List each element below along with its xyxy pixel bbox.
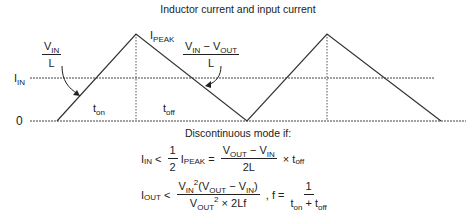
eq1-toff-sub: off: [295, 157, 304, 166]
eq2-main-fraction: VIN2(VOUT − VIN) VOUT2 × 2Lf: [177, 180, 260, 209]
eq2-dv-sq: 2: [214, 195, 218, 204]
fall-slope-numerator: VIN − VOUT: [183, 40, 239, 55]
eq2-fa-sub: on: [294, 203, 303, 212]
fall-slope-fraction: VIN − VOUT L: [183, 40, 239, 69]
eq1-minus: −: [247, 144, 260, 156]
eq2-f-fraction: 1 ton + toff: [291, 180, 327, 209]
equation-2: IOUT < VIN2(VOUT − VIN) VOUT2 × 2Lf , f …: [141, 180, 330, 209]
ton-label: ton: [93, 103, 105, 114]
iin-axis-label: IIN: [14, 73, 25, 84]
eq1-ipeak-sub: PEAK: [184, 157, 205, 166]
equation-1: IIN < 12 IPEAK = VOUT − VIN 2L × toff: [141, 144, 304, 173]
eq1-vb: V: [259, 144, 266, 156]
zero-axis-label: 0: [16, 115, 23, 127]
iin-sub: IN: [17, 78, 25, 87]
eq2-nrest: (V: [198, 180, 209, 192]
ipeak-label: IPEAK: [150, 30, 174, 41]
eq2-numerator: VIN2(VOUT − VIN): [177, 180, 260, 195]
rise-slope-arrow: [62, 66, 78, 94]
eq1-numerator: VOUT − VIN: [221, 144, 277, 159]
fall-vb-sub: OUT: [220, 46, 237, 55]
eq2-nv-sub: IN: [186, 186, 194, 195]
eq1-main-fraction: VOUT − VIN 2L: [221, 144, 277, 173]
fall-arrowhead-icon: [205, 81, 211, 88]
fall-va-sub: IN: [192, 46, 200, 55]
eq1-lhs-sub: IN: [144, 157, 152, 166]
toff-label: toff: [163, 103, 175, 114]
eq2-nv: V: [179, 180, 186, 192]
eq1-lt: <: [152, 153, 165, 165]
eq2-lt: <: [161, 189, 174, 201]
eq2-denominator: VOUT2 × 2Lf: [190, 195, 247, 209]
fall-slope-denominator: L: [208, 55, 214, 69]
toff-sub: off: [166, 108, 175, 117]
rise-slope-numerator: VIN: [42, 40, 61, 55]
eq2-nminus: − V: [226, 180, 246, 192]
ton-sub: on: [96, 108, 105, 117]
eq2-f-den: ton + toff: [291, 195, 327, 209]
eq1-half-den: 2: [170, 159, 176, 173]
eq2-nclose: ): [254, 180, 258, 192]
eq1-vb-sub: IN: [267, 150, 275, 159]
eq1-times-toff: × t: [280, 153, 296, 165]
eq1-half-fraction: 12: [168, 144, 178, 173]
rise-slope-denominator: L: [49, 55, 55, 69]
eq2-drest: × 2Lf: [219, 197, 247, 209]
eq2-nv-sq: 2: [194, 178, 198, 187]
rise-v-sub: IN: [51, 46, 59, 55]
rise-slope-fraction: VIN L: [42, 40, 61, 69]
fall-minus: −: [200, 40, 213, 52]
eq2-f-num: 1: [304, 180, 314, 195]
eq2-fb-sub: off: [318, 203, 327, 212]
diagram-title: Inductor current and input current: [0, 4, 476, 15]
eq1-equals: =: [205, 153, 218, 165]
eq1-va-sub: OUT: [230, 150, 247, 159]
eq1-half-num: 1: [168, 144, 178, 159]
ipeak-sub: PEAK: [153, 35, 174, 44]
eq2-lhs-sub: OUT: [144, 193, 161, 202]
eq2-nin-sub: IN: [246, 186, 254, 195]
eq2-nout-sub: OUT: [209, 186, 226, 195]
eq1-va: V: [223, 144, 230, 156]
eq2-fplus: + t: [302, 197, 318, 209]
eq2-f-equals: , f =: [263, 189, 288, 201]
discontinuous-caption: Discontinuous mode if:: [0, 128, 476, 139]
eq1-denominator: 2L: [243, 159, 255, 173]
eq2-dv-sub: OUT: [197, 203, 214, 212]
